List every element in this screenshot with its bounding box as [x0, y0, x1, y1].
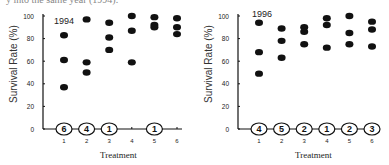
data-point [128, 13, 136, 19]
x-tick-label: 5 [153, 138, 157, 144]
x-tick-label: 1 [62, 138, 66, 144]
y-axis-label: Survival Rate (%) [203, 25, 214, 103]
data-point [300, 41, 308, 47]
data-point [345, 30, 353, 36]
x-tick-label: 6 [175, 138, 179, 144]
data-point [83, 16, 91, 22]
data-point [128, 59, 136, 65]
y-tick-label: 40 [222, 80, 230, 87]
zero-count-label: 4 [84, 124, 89, 134]
data-point [323, 22, 331, 28]
zero-count-label: 3 [369, 124, 374, 134]
x-tick-label: 4 [325, 138, 329, 144]
y-tick-label: 0 [30, 126, 34, 133]
data-point [255, 20, 263, 26]
y-tick-label: 80 [222, 35, 230, 42]
data-point [300, 29, 308, 35]
data-point [60, 32, 68, 38]
data-point [105, 20, 113, 26]
y-tick-label: 40 [27, 80, 35, 87]
data-point [83, 59, 91, 65]
y-tick-label: 20 [27, 103, 35, 110]
x-tick-label: 2 [280, 138, 284, 144]
data-point [60, 57, 68, 63]
data-point [173, 31, 181, 37]
chart-title-year: 1994 [54, 16, 74, 26]
data-point [173, 24, 181, 30]
data-point [278, 38, 286, 44]
data-point [150, 24, 158, 30]
data-point [255, 49, 263, 55]
data-point [368, 43, 376, 49]
data-point [368, 18, 376, 24]
y-tick-label: 80 [27, 35, 35, 42]
x-tick-label: 1 [257, 138, 261, 144]
x-tick-label: 4 [130, 138, 134, 144]
data-point [105, 34, 113, 40]
data-point [323, 15, 331, 21]
y-tick-label: 100 [23, 13, 34, 20]
plot-area-1994: 0204060801001234566411 [0, 0, 194, 165]
data-point [128, 27, 136, 33]
data-point [345, 41, 353, 47]
data-point [150, 14, 158, 20]
x-axis-label: Treatment [100, 150, 137, 160]
x-tick-label: 6 [370, 138, 374, 144]
y-tick-label: 60 [222, 58, 230, 65]
chart-1996: 020406080100123456452123 Survival Rate (… [195, 0, 389, 165]
data-point [105, 47, 113, 53]
plot-area-1996: 020406080100123456452123 [195, 0, 389, 165]
zero-count-label: 5 [279, 124, 284, 134]
chart-1994: 0204060801001234566411 Survival Rate (%)… [0, 0, 194, 165]
y-tick-label: 0 [225, 126, 229, 133]
x-axis-label: Treatment [295, 150, 332, 160]
y-tick-label: 100 [218, 13, 229, 20]
data-point [83, 69, 91, 75]
data-point [323, 44, 331, 50]
y-tick-label: 20 [222, 103, 230, 110]
zero-count-label: 1 [107, 124, 112, 134]
data-point [368, 26, 376, 32]
x-tick-label: 3 [303, 138, 307, 144]
zero-count-label: 1 [324, 124, 329, 134]
zero-count-label: 4 [256, 124, 261, 134]
y-axis-label: Survival Rate (%) [8, 25, 19, 103]
data-point [345, 13, 353, 19]
x-tick-label: 5 [348, 138, 352, 144]
zero-count-label: 6 [61, 124, 66, 134]
data-point [60, 84, 68, 90]
zero-count-label: 2 [347, 124, 352, 134]
chart-title-year: 1996 [252, 9, 272, 19]
zero-count-label: 1 [152, 124, 157, 134]
data-point [278, 55, 286, 61]
data-point [173, 15, 181, 21]
x-tick-label: 3 [108, 138, 112, 144]
zero-count-label: 2 [302, 124, 307, 134]
data-point [255, 70, 263, 76]
data-point [278, 25, 286, 31]
y-tick-label: 60 [27, 58, 35, 65]
x-tick-label: 2 [85, 138, 89, 144]
